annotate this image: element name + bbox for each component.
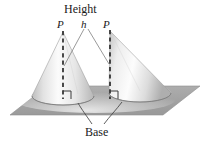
- cone-geometry-figure: Height P h P Base: [0, 0, 209, 143]
- height-label: Height: [64, 3, 97, 15]
- base-label: Base: [85, 126, 108, 138]
- apex-label-left: P: [57, 19, 64, 30]
- leader-h-to-right-altitude: [88, 29, 109, 64]
- height-symbol-label: h: [81, 19, 87, 30]
- apex-label-right: P: [103, 19, 110, 30]
